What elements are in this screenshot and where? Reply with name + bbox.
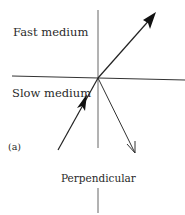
reflected-ray (98, 78, 135, 153)
refraction-diagram: Fast medium Slow medium (a) Perpendicula… (0, 0, 185, 215)
fast-medium-label: Fast medium (13, 27, 88, 39)
perpendicular-label: Perpendicular (61, 173, 136, 184)
slow-medium-label: Slow medium (12, 88, 91, 100)
panel-label: (a) (8, 142, 21, 152)
reflected-ray-arrowhead-icon (127, 141, 135, 153)
refracted-ray-arrowhead-icon (143, 12, 156, 29)
refracted-ray (98, 17, 152, 78)
